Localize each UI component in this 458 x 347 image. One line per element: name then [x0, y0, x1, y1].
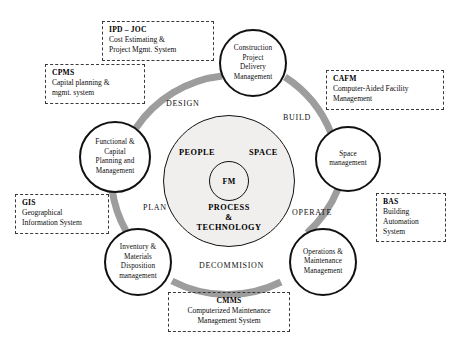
node-label: Inventory & Materials Disposition manage… [115, 243, 161, 281]
core-label-people: PEOPLE [179, 148, 215, 157]
annotation-line: Management [333, 94, 438, 104]
annotation-title: BAS [383, 197, 440, 207]
node-line: Disposition [119, 262, 157, 272]
node-line: Inventory & [119, 243, 157, 253]
node-line: Construction [234, 44, 273, 54]
phase-label-operate: OPERATE [292, 208, 332, 217]
node-line: Space [329, 150, 367, 160]
annotation-line: mgmt. system [52, 88, 139, 98]
arc-plan [112, 189, 126, 231]
annotation-title: GIS [22, 198, 103, 208]
annotation-line: Computerized Maintenance [174, 306, 284, 316]
annotation-box-cpms[interactable]: CPMS Capital planning & mgmt. system [45, 64, 145, 104]
node-label: Construction Project Delivery Management [230, 44, 277, 82]
core-inner-ring: FM [209, 161, 249, 201]
node-line: management [119, 272, 157, 282]
node-line: Project [234, 54, 273, 64]
core-process-line-3: TECHNOLOGY [179, 223, 279, 233]
node-line: Functional & [95, 138, 134, 148]
phase-label-decommision: DECOMMISION [199, 261, 264, 270]
node-line: Management [303, 267, 343, 277]
annotation-title: CAFM [333, 74, 438, 84]
annotation-line: Management System [174, 316, 284, 326]
diagram-canvas: PEOPLE SPACE FM PROCESS & TECHNOLOGY DES… [0, 0, 458, 347]
annotation-line: Capital planning & [52, 78, 139, 88]
annotation-box-cmms[interactable]: CMMS Computerized Maintenance Management… [168, 292, 290, 332]
annotation-line: Computer-Aided Facility [333, 84, 438, 94]
node-label: Operations & Maintenance Management [299, 248, 347, 277]
node-line: Materials [119, 253, 157, 263]
annotation-box-cafm[interactable]: CAFM Computer-Aided Facility Management [326, 70, 444, 110]
annotation-title: IPD – JOC [109, 25, 208, 35]
node-construction-project-delivery-management[interactable]: Construction Project Delivery Management [219, 29, 287, 97]
node-line: Maintenance [303, 257, 343, 267]
annotation-line: Geographical [22, 208, 103, 218]
node-space-management[interactable]: Space management [315, 126, 381, 192]
annotation-line: Automation [383, 217, 440, 227]
node-label: Space management [325, 150, 371, 169]
core-label-process-technology: PROCESS & TECHNOLOGY [179, 203, 279, 233]
annotation-box-gis[interactable]: GIS Geographical Information System [15, 194, 109, 234]
annotation-title: CMMS [174, 296, 284, 306]
node-line: management [329, 159, 367, 169]
node-line: Management [95, 167, 134, 177]
core-label-fm: FM [222, 177, 235, 186]
phase-label-plan: PLAN [143, 203, 167, 212]
core-process-line-2: & [179, 213, 279, 223]
phase-label-build: BUILD [283, 113, 311, 122]
annotation-box-ipd-joc[interactable]: IPD – JOC Cost Estimating & Project Mgmt… [102, 21, 214, 61]
node-line: Operations & [303, 248, 343, 258]
node-inventory-materials-disposition-management[interactable]: Inventory & Materials Disposition manage… [104, 228, 172, 296]
phase-label-design: DESIGN [166, 99, 200, 108]
annotation-line: Information System [22, 218, 103, 228]
annotation-line: System [383, 227, 440, 237]
node-line: Planning and [95, 157, 134, 167]
node-operations-maintenance-management[interactable]: Operations & Maintenance Management [289, 228, 357, 296]
node-line: Capital [95, 148, 134, 158]
annotation-line: Cost Estimating & [109, 35, 208, 45]
node-line: Management [234, 73, 273, 83]
core-process-line-1: PROCESS [179, 203, 279, 213]
annotation-title: CPMS [52, 68, 139, 78]
annotation-box-bas[interactable]: BAS Building Automation System [376, 193, 446, 242]
node-functional-capital-planning-management[interactable]: Functional & Capital Planning and Manage… [79, 121, 151, 193]
core-label-space: SPACE [249, 148, 278, 157]
annotation-line: Project Mgmt. System [109, 45, 208, 55]
node-line: Delivery [234, 63, 273, 73]
arc-build [285, 77, 331, 133]
annotation-line: Building [383, 207, 440, 217]
node-label: Functional & Capital Planning and Manage… [91, 138, 138, 176]
